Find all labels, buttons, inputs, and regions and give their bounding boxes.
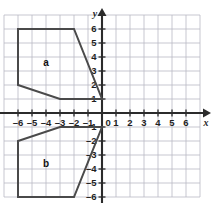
x-tick-label: 4 — [155, 117, 161, 128]
y-tick-label: 6 — [91, 23, 96, 34]
x-tick-label: 2 — [127, 117, 132, 128]
y-tick-label: –6 — [86, 191, 97, 202]
x-tick-label: –5 — [27, 117, 38, 128]
x-tick-label: 1 — [113, 117, 119, 128]
y-tick-label: 4 — [91, 51, 97, 62]
polygon-label-b: b — [43, 158, 49, 169]
x-tick-label: –4 — [41, 117, 52, 128]
y-axis-name-label: y — [92, 8, 98, 19]
x-tick-label: 6 — [183, 117, 188, 128]
graph-canvas: –6–5–4–3–2–1123456654321–1–2–3–4–5–60 ab… — [0, 0, 215, 221]
x-tick-label: 5 — [169, 117, 175, 128]
coordinate-graph-figure: –6–5–4–3–2–1123456654321–1–2–3–4–5–60 ab… — [0, 0, 215, 221]
y-axis-arrowhead — [98, 8, 107, 16]
x-tick-label: 3 — [141, 117, 146, 128]
y-tick-label: –5 — [86, 177, 97, 188]
axis-labels: xy — [92, 8, 209, 128]
x-tick-label: –6 — [13, 117, 24, 128]
polygon-label-a: a — [43, 57, 49, 68]
y-tick-label: 5 — [91, 37, 97, 48]
origin-label: 0 — [106, 117, 111, 128]
x-axis-name-label: x — [203, 117, 209, 128]
